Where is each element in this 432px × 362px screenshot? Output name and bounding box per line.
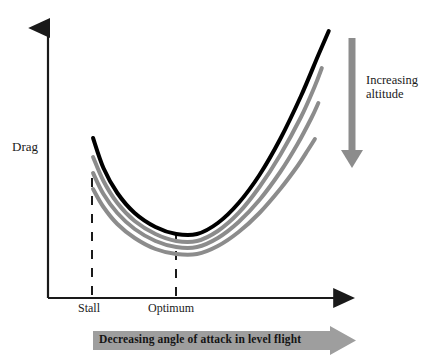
increasing-altitude-line-1: Increasing (366, 73, 418, 87)
decreasing-aoa-banner-label: Decreasing angle of attack in level flig… (99, 333, 331, 345)
x-tick-label-stall: Stall (78, 302, 100, 315)
figure-canvas (0, 0, 432, 362)
drag-curve-1 (93, 68, 322, 242)
y-axis-label: Drag (12, 140, 38, 155)
increasing-altitude-line-2: altitude (366, 87, 404, 101)
drag-curve-2 (93, 103, 318, 248)
increasing-altitude-arrow (341, 38, 363, 168)
drag-vs-angle-of-attack-figure: Drag Stall Optimum Increasingaltitude De… (0, 0, 432, 362)
increasing-altitude-label: Increasingaltitude (366, 73, 418, 101)
x-tick-label-optimum: Optimum (148, 302, 194, 315)
drag-curve-group (93, 31, 329, 255)
